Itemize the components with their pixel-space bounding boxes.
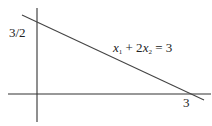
- eq-rhs: = 3: [152, 40, 172, 55]
- equation-label: x1 + 2x2 = 3: [113, 41, 172, 56]
- graph-canvas: [0, 0, 212, 126]
- y-intercept-label: 3/2: [9, 26, 26, 39]
- x-intercept-label: 3: [183, 96, 190, 109]
- eq-plus-2: + 2: [122, 40, 142, 55]
- constraint-line: [22, 15, 204, 100]
